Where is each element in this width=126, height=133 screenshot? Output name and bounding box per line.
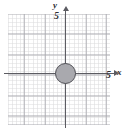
y-axis-label: y xyxy=(53,1,57,10)
circle-shape xyxy=(55,63,76,84)
x-axis-tick-label: 5 xyxy=(106,70,111,80)
y-axis-arrow-icon xyxy=(63,6,69,11)
x-axis-label: x xyxy=(117,68,122,77)
coordinate-plane-figure: y 5 x 5 xyxy=(0,0,126,133)
y-axis-tick-label: 5 xyxy=(54,11,59,21)
